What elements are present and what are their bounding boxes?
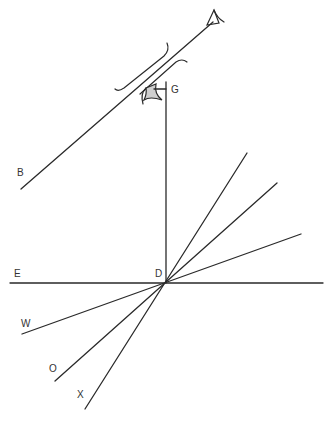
top-sight-icon bbox=[207, 10, 224, 25]
bottom-sight-icon bbox=[142, 84, 162, 104]
label-e: E bbox=[14, 268, 21, 279]
label-o: O bbox=[49, 363, 57, 374]
geometry-diagram: B G E D W O X bbox=[0, 0, 335, 423]
ray-w bbox=[22, 234, 301, 334]
label-d: D bbox=[155, 268, 162, 279]
upper-brace bbox=[115, 43, 168, 90]
label-g: G bbox=[171, 84, 179, 95]
label-w: W bbox=[21, 318, 31, 329]
label-x: X bbox=[77, 389, 84, 400]
label-b: B bbox=[17, 167, 24, 178]
line-b-sight bbox=[21, 22, 213, 189]
